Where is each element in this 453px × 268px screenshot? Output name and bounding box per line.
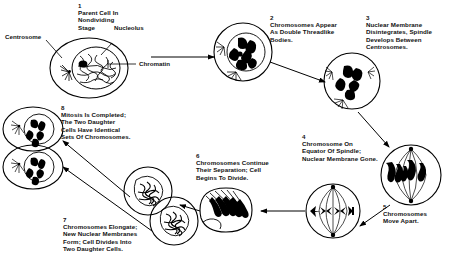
callout-chromatin: Chromatin [139,60,170,67]
arrow-7-to-8-upper [63,141,130,197]
cell-prophase-early [214,23,272,81]
stage-4-caption: Chromosome On Equator Of Spindle; Nuclea… [302,140,378,162]
cell-anaphase [306,184,360,238]
cell-telophase [200,188,252,232]
stage-3-caption: Nuclear Membrane Disintegrates, Spindle … [366,21,432,50]
arrow-7-to-8-lower [63,167,152,231]
cell-prophase-late [324,53,380,109]
daughter-cells [3,107,63,189]
mitosis-diagram: 1 Parent Cell In Nondividing Stage Centr… [0,0,453,268]
callout-nucleolus: Nucleolus [114,24,144,31]
stage-8-caption: Mitosis Is Completed; The Two Daughter C… [61,111,130,140]
arrow-2-to-3 [270,62,325,82]
stage-5-caption: Chromosomes Move Apart. [383,210,427,225]
stage-7-caption: Chromosomes Elongate; New Nuclear Membra… [63,223,137,252]
stage-2-caption: Chromosomes Appear As Double Threadlike … [270,21,337,43]
nucleolus-leader [101,43,112,55]
centrosome [60,65,72,81]
stage-1-caption: Parent Cell In Nondividing Stage [78,9,118,31]
cell-metaphase [381,145,441,205]
cell-parent-interphase [46,38,136,98]
nucleolus [79,60,88,67]
stage-6-caption: Chromosomes Continue Their Separation; C… [196,159,269,181]
callout-centrosome: Centrosome [5,33,41,40]
